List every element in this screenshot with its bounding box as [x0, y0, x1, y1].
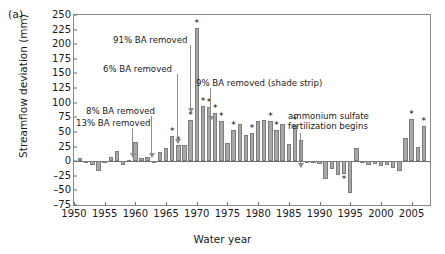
y-tick-label: 200 — [52, 39, 71, 49]
x-tick-mark — [166, 202, 167, 205]
bar — [403, 138, 407, 161]
bar — [238, 124, 242, 161]
bar — [158, 152, 162, 161]
y-tick-mark — [74, 102, 77, 103]
y-tick-mark — [74, 44, 77, 45]
bar — [409, 119, 413, 161]
y-tick-mark — [74, 146, 77, 147]
annotation-arrow-ba-91 — [190, 45, 191, 112]
bar — [231, 130, 235, 161]
y-tick-label: 0 — [65, 156, 71, 166]
bar — [250, 133, 254, 161]
bar — [188, 120, 192, 162]
bar — [225, 143, 229, 161]
y-tick-label: –25 — [53, 171, 71, 181]
bar — [164, 148, 168, 161]
annotation-arrow-ba-13 — [132, 128, 133, 157]
x-tick-label: 1960 — [123, 209, 148, 219]
x-tick-label: 1965 — [153, 209, 178, 219]
x-tick-mark — [135, 202, 136, 205]
bar — [373, 161, 377, 164]
x-tick-mark — [350, 202, 351, 205]
annotation-ba-91: 91% BA removed — [113, 35, 187, 45]
annotation-ba-9: 9% BA removed (shade strip) — [196, 78, 322, 88]
bar — [201, 106, 205, 162]
annotation-arrow-ba-6 — [177, 74, 178, 143]
bar — [96, 161, 100, 171]
significance-marker: * — [342, 175, 347, 184]
bar — [127, 160, 131, 162]
significance-marker: * — [409, 110, 414, 119]
y-tick-mark — [74, 175, 77, 176]
bar — [115, 151, 119, 162]
significance-marker: * — [213, 104, 218, 113]
y-tick-label: 75 — [58, 112, 71, 122]
bar — [90, 161, 94, 165]
bar — [139, 158, 143, 161]
bar — [385, 161, 389, 165]
y-tick-mark — [74, 161, 77, 162]
significance-marker: * — [195, 19, 200, 28]
x-tick-label: 1990 — [307, 209, 332, 219]
x-tick-mark — [74, 202, 75, 205]
y-tick-mark — [74, 73, 77, 74]
x-tick-label: 1980 — [245, 209, 270, 219]
x-tick-label: 2000 — [368, 209, 393, 219]
bar — [360, 161, 364, 163]
bar — [391, 161, 395, 167]
x-axis-label: Water year — [0, 233, 445, 245]
x-tick-label: 2005 — [399, 209, 424, 219]
x-tick-mark — [197, 202, 198, 205]
bar — [379, 161, 383, 166]
bar — [78, 158, 82, 161]
bar — [213, 113, 217, 161]
x-tick-mark — [320, 202, 321, 205]
x-tick-mark — [289, 202, 290, 205]
bar — [366, 161, 370, 165]
significance-marker: * — [231, 121, 236, 130]
bar — [342, 161, 346, 174]
significance-marker: * — [219, 112, 224, 121]
bar — [274, 130, 278, 162]
bar — [287, 144, 291, 162]
significance-marker: * — [170, 127, 175, 136]
y-tick-label: 50 — [58, 127, 71, 137]
y-tick-label: 100 — [52, 98, 71, 108]
bar — [84, 161, 88, 163]
x-tick-mark — [105, 202, 106, 205]
y-tick-mark — [74, 88, 77, 89]
x-tick-mark — [258, 202, 259, 205]
annotation-ba-13: 13% BA removed — [76, 118, 150, 128]
bar — [354, 148, 358, 161]
bar — [244, 135, 248, 161]
bar — [256, 121, 260, 161]
bar — [262, 120, 266, 162]
bar — [280, 124, 284, 161]
annotation-amm-sulf: ammonium sulfate fertilization begins — [288, 111, 369, 131]
y-tick-label: 25 — [58, 142, 71, 152]
y-tick-mark — [74, 131, 77, 132]
bar — [152, 161, 156, 163]
bar — [330, 161, 334, 169]
bar — [397, 161, 401, 171]
annotation-arrow-ba-8 — [151, 116, 152, 157]
x-tick-label: 1985 — [276, 209, 301, 219]
x-tick-label: 1970 — [184, 209, 209, 219]
bar — [176, 145, 180, 161]
y-tick-label: 250 — [52, 10, 71, 20]
bar — [422, 126, 426, 161]
significance-marker: * — [250, 124, 255, 133]
bar — [311, 161, 315, 163]
bar — [195, 28, 199, 161]
bar — [182, 145, 186, 161]
bar — [109, 157, 113, 161]
x-tick-label: 1995 — [337, 209, 362, 219]
annotation-arrow-amm-sulf — [300, 133, 301, 167]
y-tick-mark — [74, 15, 77, 16]
y-axis-label: Streamflow deviation (mm) — [17, 1, 29, 171]
bar — [121, 161, 125, 165]
significance-marker: * — [201, 97, 206, 106]
significance-marker: * — [274, 121, 279, 130]
y-tick-label: 175 — [52, 54, 71, 64]
x-tick-label: 1975 — [215, 209, 240, 219]
